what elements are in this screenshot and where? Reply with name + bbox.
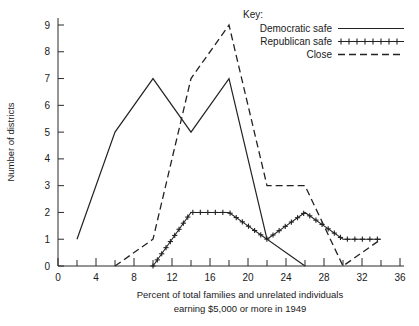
y-tick-label: 4 (44, 153, 50, 164)
y-tick-label: 1 (44, 234, 50, 245)
x-tick-label: 8 (131, 272, 137, 283)
y-tick-label: 9 (44, 20, 50, 31)
y-tick-label: 0 (44, 261, 50, 272)
x-tick-label: 28 (318, 272, 330, 283)
y-tick-label: 8 (44, 46, 50, 57)
y-tick-label: 3 (44, 180, 50, 191)
legend-label-2: Close (306, 49, 332, 60)
x-tick-label: 4 (93, 272, 99, 283)
chart-figure: 0123456789 04812162024283236 Key:Democra… (0, 0, 419, 326)
x-tick-label: 12 (166, 272, 178, 283)
legend-title: Key: (243, 9, 263, 20)
legend-label-1: Republican safe (260, 36, 332, 47)
x-tick-label: 0 (55, 272, 61, 283)
x-tick-label: 20 (242, 272, 254, 283)
y-tick-label: 2 (44, 207, 50, 218)
y-tick-label: 5 (44, 127, 50, 138)
legend-label-0: Democratic safe (260, 23, 333, 34)
line-chart: 0123456789 04812162024283236 Key:Democra… (0, 0, 419, 326)
x-tick-label: 24 (280, 272, 292, 283)
x-tick-label: 32 (356, 272, 368, 283)
x-axis-title-line2: earning $5,000 or more in 1949 (174, 303, 307, 314)
x-axis-title-line1: Percent of total families and unrelated … (137, 289, 344, 300)
y-tick-label: 7 (44, 73, 50, 84)
y-tick-label: 6 (44, 100, 50, 111)
x-tick-label: 36 (394, 272, 406, 283)
x-tick-label: 16 (204, 272, 216, 283)
y-axis-title: Number of districts (5, 102, 16, 181)
